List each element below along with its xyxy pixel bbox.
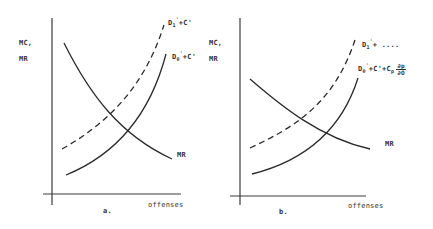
panel-b-mr-curve	[250, 79, 370, 149]
panel-a-y-label-mr: MR	[19, 55, 28, 63]
panel-a-solid-curve-label: D0'+C'	[172, 49, 196, 63]
diagram-canvas	[0, 0, 433, 229]
panel-b-x-axis-label: offenses	[348, 202, 383, 210]
panel-a-mr-curve-label: MR	[177, 151, 186, 159]
panel-a-dashed-cost-curve	[62, 25, 164, 149]
panel-b-y-label-mc: MC,	[209, 39, 222, 47]
panel-a-x-axis-label: offenses	[148, 201, 183, 209]
panel-b-y-label-mr: MR	[209, 55, 218, 63]
panel-a-caption: a.	[103, 207, 112, 215]
panel-b-solid-cost-curve	[252, 78, 358, 174]
panel-b-dashed-cost-curve	[250, 40, 355, 148]
panel-a-dashed-curve-label: D1'+C'	[168, 15, 192, 29]
panel-b-solid-curve-label: D0'+C'+Cp∂p∂O	[358, 61, 406, 76]
panel-a-solid-cost-curve	[66, 54, 166, 175]
panel-b-dashed-curve-label: D1'+ ....	[362, 37, 399, 51]
panel-b	[230, 18, 370, 205]
panel-a	[43, 18, 181, 205]
economics-diagram-figure: MC, MR D1'+C' D0'+C' MR offenses a. MC, …	[0, 0, 433, 229]
panel-b-caption: b.	[279, 208, 288, 216]
partial-derivative-fraction: ∂p∂O	[396, 63, 406, 76]
panel-b-mr-curve-label: MR	[385, 140, 394, 148]
panel-a-y-label-mc: MC,	[19, 39, 32, 47]
